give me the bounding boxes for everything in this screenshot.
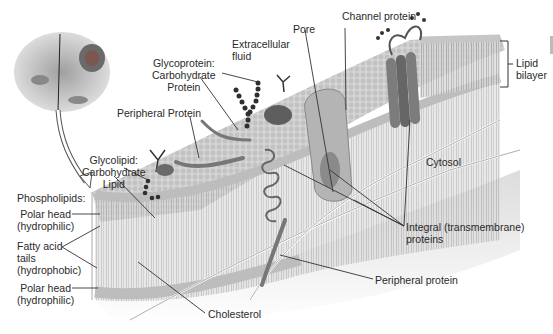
label-glycolipid-line2: Carbohydrate xyxy=(82,166,146,178)
label-glycoprotein-line1: Glycoprotein: xyxy=(152,57,216,69)
label-cytosol: Cytosol xyxy=(426,156,461,168)
label-extracellular-line2: fluid xyxy=(232,50,290,62)
label-glycoprotein-line3: Protein xyxy=(152,81,216,93)
label-fatty-acid-line2: tails xyxy=(17,252,81,264)
label-polar-head-bottom: Polar head (hydrophilic) xyxy=(17,282,74,306)
label-peripheral-protein-top: Peripheral Protein xyxy=(117,107,201,119)
label-glycoprotein-line2: Carbohydrate xyxy=(152,69,216,81)
globular-protein xyxy=(264,105,292,125)
label-fatty-acid-line1: Fatty acid xyxy=(17,240,81,252)
label-extracellular-line1: Extracellular xyxy=(232,38,290,50)
cell-thumbnail xyxy=(14,32,110,112)
label-integral-proteins: Integral (transmembrane) proteins xyxy=(406,221,524,245)
label-integral-line2: proteins xyxy=(406,233,524,245)
label-extracellular-fluid: Extracellular fluid xyxy=(232,38,290,62)
label-fatty-acid-tails: Fatty acid tails (hydrophobic) xyxy=(17,240,81,276)
label-lipid-bilayer-line1: Lipid xyxy=(516,57,547,69)
label-lipid-bilayer: Lipid bilayer xyxy=(516,57,547,81)
label-polar-head-top-line1: Polar head xyxy=(17,208,74,220)
label-phospholipids: Phospholipids: xyxy=(17,192,85,204)
label-polar-head-top: Polar head (hydrophilic) xyxy=(17,208,74,232)
label-peripheral-protein-bottom: Peripheral protein xyxy=(375,274,458,286)
membrane-diagram: Extracellular fluid Pore Channel protein… xyxy=(0,0,553,334)
label-cholesterol: Cholesterol xyxy=(208,308,261,320)
label-integral-line1: Integral (transmembrane) xyxy=(406,221,524,233)
label-glycolipid-line3: Lipid xyxy=(82,178,146,190)
label-pore: Pore xyxy=(293,23,315,35)
label-glycoprotein: Glycoprotein: Carbohydrate Protein xyxy=(152,57,216,93)
label-polar-head-bottom-line2: (hydrophilic) xyxy=(17,294,74,306)
label-polar-head-top-line2: (hydrophilic) xyxy=(17,220,74,232)
label-fatty-acid-line3: (hydrophobic) xyxy=(17,264,81,276)
label-channel-protein: Channel protein xyxy=(342,10,416,22)
label-glycolipid-line1: Glycolipid: xyxy=(82,154,146,166)
label-lipid-bilayer-line2: bilayer xyxy=(516,69,547,81)
label-glycolipid: Glycolipid: Carbohydrate Lipid xyxy=(82,154,146,190)
label-polar-head-bottom-line1: Polar head xyxy=(17,282,74,294)
